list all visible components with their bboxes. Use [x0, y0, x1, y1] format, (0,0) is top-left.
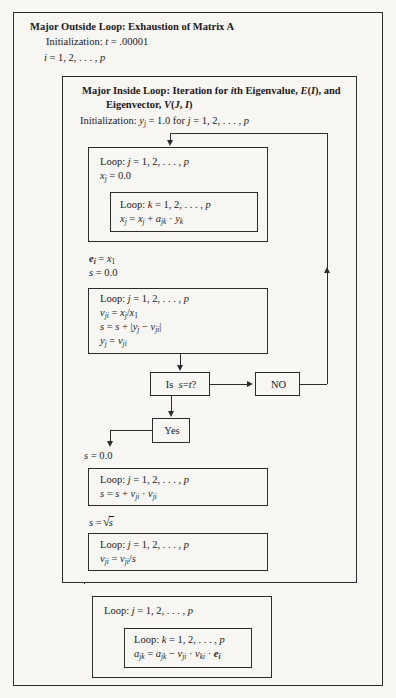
flowchart-page: Major Outside Loop: Exhaustion of Matrix…	[0, 0, 396, 698]
connector-yes-to-left	[110, 430, 153, 431]
loop-box-3-statement: s = s + vji · vji	[100, 487, 157, 502]
outside-loop-initialization: Initialization: t = .00001	[46, 35, 148, 49]
outside-loop-index: i = 1, 2, . . . , p	[44, 51, 105, 65]
loop-box-1-inner-statement: xj = xj + ajk · yk	[120, 212, 183, 227]
connector-feedback-top-horizontal	[170, 133, 328, 134]
decision-label: Is s = t?	[151, 373, 211, 397]
connector-feedback-vertical	[327, 133, 328, 384]
bottom-loop-inner-statement: ajk = ajk − vji · vki · ei	[134, 647, 221, 662]
arrowhead-to-s-reset-icon	[107, 441, 113, 447]
connector-decision-to-yes	[171, 396, 172, 412]
no-branch-box[interactable]: NO	[255, 372, 300, 396]
bottom-loop-inner-header: Loop: k = 1, 2, . . . , p	[134, 633, 225, 647]
arrowhead-to-yes-icon	[168, 411, 174, 417]
major-inside-loop-title-line2: Eigenvector, V(J, I)	[106, 98, 193, 112]
connector-exit-horizontal	[84, 583, 85, 584]
no-branch-label: NO	[256, 373, 301, 397]
connector-decision-to-no	[210, 384, 248, 385]
equation-eigenvalue-assign: ei = x1	[89, 252, 115, 267]
bottom-loop-header: Loop: j = 1, 2, . . . , p	[104, 604, 193, 618]
loop-box-4-header: Loop: j = 1, 2, . . . , p	[100, 538, 189, 552]
major-inside-loop-title-line1: Major Inside Loop: Iteration for ith Eig…	[82, 84, 341, 98]
arrowhead-to-decision-icon	[177, 365, 183, 371]
equation-s-square-root: s =√s	[89, 515, 114, 530]
inside-loop-initialization: Initialization: yj = 1.0 for j = 1, 2, .…	[80, 114, 249, 129]
arrowhead-to-no-icon	[247, 381, 253, 387]
yes-branch-box[interactable]: Yes	[152, 418, 190, 443]
loop-box-1-header: Loop: j = 1, 2, . . . , p	[100, 155, 189, 169]
loop-box-1-inner-header: Loop: k = 1, 2, . . . , p	[120, 198, 211, 212]
equation-s-reset-second: s = 0.0	[84, 449, 112, 463]
equation-s-reset-first: s = 0.0	[89, 266, 117, 280]
loop-box-1-statement: xj = 0.0	[100, 169, 131, 184]
loop-box-2-header: Loop: j = 1, 2, . . . , p	[100, 292, 189, 306]
major-outside-loop-title: Major Outside Loop: Exhaustion of Matrix…	[30, 20, 234, 34]
loop-box-4-statement: vji = vji/s	[100, 552, 136, 567]
decision-box-convergence[interactable]: Is s = t?	[150, 372, 210, 396]
loop-box-2-statement-2: s = s + |yj − vji|	[100, 320, 161, 335]
arrowhead-feedback-up-icon	[324, 267, 330, 273]
loop-box-2-statement-3: yj = vji	[100, 334, 127, 349]
connector-no-to-right	[300, 384, 327, 385]
loop-box-3-header: Loop: j = 1, 2, . . . , p	[100, 473, 189, 487]
loop-box-2-statement-1: vji = xj/x1	[100, 306, 138, 321]
yes-branch-label: Yes	[153, 419, 191, 444]
arrowhead-into-loop1-icon	[167, 140, 173, 146]
